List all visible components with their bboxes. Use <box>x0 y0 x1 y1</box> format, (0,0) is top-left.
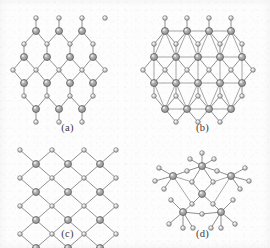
large-atom <box>162 28 169 35</box>
small-atom <box>91 94 96 99</box>
small-atom <box>18 176 23 181</box>
small-atom <box>167 222 172 227</box>
small-atom <box>82 176 87 181</box>
large-atom <box>97 245 104 248</box>
small-atom <box>80 16 85 21</box>
bond <box>213 176 231 204</box>
large-atom <box>33 217 40 224</box>
large-atom <box>217 54 224 61</box>
large-atom <box>33 245 40 248</box>
small-atom <box>162 187 167 192</box>
large-atom <box>97 161 104 168</box>
small-atom <box>247 179 252 184</box>
pentagonal-cluster-diagram <box>135 140 270 230</box>
small-atom <box>50 176 55 181</box>
small-atom <box>211 180 216 185</box>
large-atom <box>65 161 72 168</box>
honeycomb-lattice-diagram <box>0 4 135 122</box>
large-atom <box>151 80 158 87</box>
small-atom <box>188 157 193 162</box>
large-atom <box>170 173 177 180</box>
small-atom <box>169 198 174 203</box>
bond <box>173 176 192 204</box>
small-atom <box>141 68 146 73</box>
large-atom <box>90 80 97 87</box>
small-atom <box>153 179 158 184</box>
large-atom <box>33 161 40 168</box>
small-atom <box>103 16 108 21</box>
small-atom <box>114 176 119 181</box>
small-atom <box>190 180 195 185</box>
small-atom <box>114 204 119 209</box>
large-atom <box>184 28 191 35</box>
panel-d: (d) <box>135 140 270 248</box>
small-atom <box>22 42 27 47</box>
small-atom <box>174 94 179 99</box>
large-atom <box>228 173 235 180</box>
large-atom <box>44 80 51 87</box>
large-atom <box>44 54 51 61</box>
small-atom <box>240 94 245 99</box>
small-atom <box>185 68 190 73</box>
small-atom <box>251 68 256 73</box>
small-atom <box>82 148 87 153</box>
small-atom <box>152 94 157 99</box>
large-atom <box>67 54 74 61</box>
small-atom <box>231 198 236 203</box>
triangular-lattice-diagram <box>135 4 270 122</box>
large-atom <box>56 28 63 35</box>
large-atom <box>79 106 86 113</box>
small-atom <box>238 187 243 192</box>
large-atom <box>97 217 104 224</box>
large-atom <box>97 189 104 196</box>
small-atom <box>103 68 108 73</box>
small-atom <box>114 148 119 153</box>
small-atom <box>68 42 73 47</box>
large-atom <box>79 28 86 35</box>
large-atom <box>239 54 246 61</box>
small-atom <box>196 42 201 47</box>
small-atom <box>185 169 190 174</box>
small-atom <box>22 94 27 99</box>
figure-canvas: (a) (b) (c) (d) <box>0 0 270 248</box>
small-atom <box>50 204 55 209</box>
large-atom <box>195 80 202 87</box>
small-atom <box>163 68 168 73</box>
small-atom <box>207 68 212 73</box>
large-atom <box>184 106 191 113</box>
small-atom <box>196 94 201 99</box>
small-atom <box>34 68 39 73</box>
rhombic-lattice-diagram <box>0 140 135 230</box>
large-atom <box>206 106 213 113</box>
small-atom <box>229 16 234 21</box>
large-atom <box>180 209 187 216</box>
small-atom <box>185 16 190 21</box>
large-atom <box>199 191 206 198</box>
small-atom <box>243 166 248 171</box>
panel-a: (a) <box>0 4 135 138</box>
panel-c: (c) <box>0 140 135 248</box>
small-atom <box>174 42 179 47</box>
panel-a-label: (a) <box>0 122 135 133</box>
small-atom <box>45 94 50 99</box>
small-atom <box>240 42 245 47</box>
large-atom <box>67 80 74 87</box>
large-atom <box>56 106 63 113</box>
panel-b-label: (b) <box>135 122 270 133</box>
large-atom <box>162 106 169 113</box>
small-atom <box>157 166 162 171</box>
small-atom <box>18 148 23 153</box>
small-atom <box>91 42 96 47</box>
large-atom <box>33 28 40 35</box>
large-atom <box>65 245 72 248</box>
small-atom <box>50 148 55 153</box>
small-atom <box>215 169 220 174</box>
panel-c-label: (c) <box>0 228 135 239</box>
large-atom <box>33 106 40 113</box>
small-atom <box>11 68 16 73</box>
small-atom <box>218 42 223 47</box>
panel-d-label: (d) <box>135 228 270 239</box>
large-atom <box>199 163 206 170</box>
large-atom <box>33 189 40 196</box>
large-atom <box>90 54 97 61</box>
